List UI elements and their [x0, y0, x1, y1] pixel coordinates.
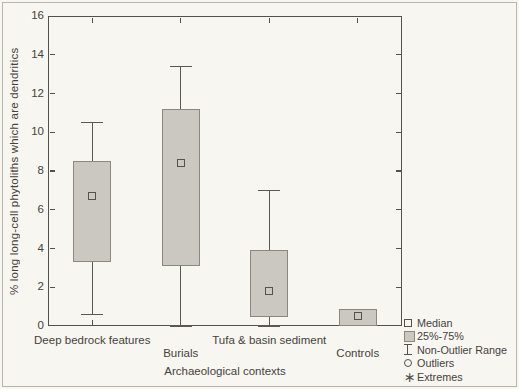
x-axis-tick [92, 320, 93, 325]
outlier-circle-icon [404, 359, 412, 367]
median-marker-icon [404, 319, 417, 327]
legend-label: Non-Outlier Range [417, 344, 507, 356]
outlier-circle-icon [404, 359, 417, 367]
y-axis-tick [50, 132, 55, 133]
x-axis-tick [180, 18, 181, 23]
y-tick-label: 10 [12, 125, 44, 137]
y-tick-label: 12 [12, 87, 44, 99]
lower-whisker [180, 266, 181, 326]
y-tick-label: 6 [12, 203, 44, 215]
median-marker [265, 287, 273, 295]
legend-item: 25%-75% [404, 330, 516, 343]
y-tick-label: 14 [12, 48, 44, 60]
x-category-label: Tufa & basin sediment [189, 334, 349, 346]
y-axis-tick [50, 209, 55, 210]
x-axis-tick [269, 18, 270, 23]
x-axis-title: Archaeological contexts [48, 365, 402, 377]
upper-whisker [269, 190, 270, 250]
legend-item: Non-Outlier Range [404, 343, 516, 356]
y-axis-tick [396, 209, 401, 210]
median-marker [88, 192, 96, 200]
boxplot-figure: % long long-cell phytoliths which are de… [0, 0, 519, 389]
median-marker [177, 159, 185, 167]
y-axis-tick [50, 54, 55, 55]
y-axis-tick [396, 54, 401, 55]
y-axis-tick [50, 93, 55, 94]
y-axis-tick [396, 287, 401, 288]
legend-label: Median [417, 317, 452, 329]
legend: Median25%-75%Non-Outlier RangeOutliers∗E… [404, 316, 516, 384]
y-axis-tick [396, 170, 401, 171]
median-marker-icon [404, 319, 412, 327]
y-axis-tick [396, 93, 401, 94]
legend-label: 25%-75% [417, 330, 464, 342]
y-tick-label: 0 [12, 319, 44, 331]
iqr-box [162, 109, 200, 266]
iqr-box [250, 250, 288, 317]
y-tick-label: 16 [12, 9, 44, 21]
upper-whisker-cap [81, 122, 103, 123]
extreme-asterisk-icon: ∗ [404, 372, 417, 382]
legend-item: Median [404, 316, 516, 329]
upper-whisker [92, 123, 93, 162]
x-axis-tick [357, 18, 358, 23]
y-tick-label: 4 [12, 242, 44, 254]
y-axis-tick [50, 248, 55, 249]
x-category-label: Burials [101, 347, 261, 359]
legend-label: Outliers [417, 357, 454, 369]
y-axis-tick [50, 170, 55, 171]
median-marker [354, 312, 362, 320]
y-axis-tick [396, 132, 401, 133]
legend-item: Outliers [404, 357, 516, 370]
legend-item: ∗Extremes [404, 370, 516, 383]
lower-whisker-cap [258, 325, 280, 326]
non-outlier-range-icon [404, 344, 412, 355]
legend-label: Extremes [417, 371, 463, 383]
upper-whisker-cap [258, 190, 280, 191]
iqr-box [73, 161, 111, 262]
lower-whisker [92, 262, 93, 314]
y-axis-tick [50, 287, 55, 288]
x-category-label: Deep bedrock features [12, 334, 172, 346]
lower-whisker-cap [81, 314, 103, 315]
lower-whisker-cap [170, 325, 192, 326]
x-axis-tick [92, 18, 93, 23]
y-tick-label: 2 [12, 280, 44, 292]
non-outlier-range-icon [404, 344, 417, 355]
y-axis-tick [396, 248, 401, 249]
upper-whisker [180, 66, 181, 109]
iqr-box-icon [404, 331, 417, 342]
upper-whisker-cap [170, 66, 192, 67]
y-tick-label: 8 [12, 164, 44, 176]
iqr-box-icon [404, 331, 415, 342]
